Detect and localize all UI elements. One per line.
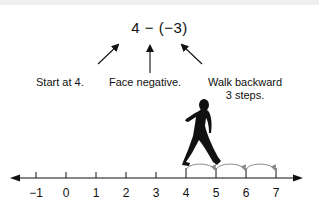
step-arc-1 — [186, 164, 215, 171]
step-arc-2 — [216, 164, 245, 171]
label-walk-backward: Walk backward 3 steps. — [201, 76, 289, 102]
tick-label: 1 — [86, 186, 106, 200]
tick-label: 4 — [176, 186, 196, 200]
label-walk-line2: 3 steps. — [201, 89, 289, 102]
walk-pointer-arrow — [182, 45, 202, 64]
diagram-canvas — [0, 0, 319, 213]
tick-label: −1 — [26, 186, 46, 200]
step-arcs — [186, 164, 275, 171]
label-start: Start at 4. — [36, 76, 84, 89]
left-arrowhead-icon — [10, 175, 20, 182]
label-face-negative: Face negative. — [109, 76, 181, 89]
tick-label: 3 — [146, 186, 166, 200]
walker-figure-icon — [182, 99, 221, 166]
label-walk-line1: Walk backward — [201, 76, 289, 89]
tick-label: 6 — [236, 186, 256, 200]
tick-label: 7 — [266, 186, 286, 200]
start-pointer-arrow — [98, 45, 118, 64]
number-line — [10, 168, 303, 182]
tick-label: 2 — [116, 186, 136, 200]
right-arrowhead-icon — [293, 175, 303, 182]
tick-label: 0 — [56, 186, 76, 200]
tick-label: 5 — [206, 186, 226, 200]
step-arc-3 — [246, 164, 275, 171]
